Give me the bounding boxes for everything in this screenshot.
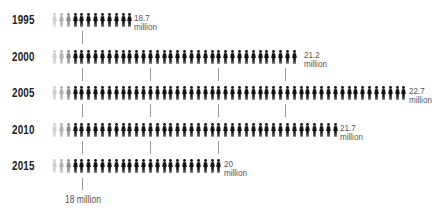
person-icon — [162, 159, 167, 173]
person-icon — [155, 86, 160, 100]
person-icon — [93, 123, 98, 137]
person-icon — [237, 50, 242, 64]
year-label-2005: 2005 — [12, 86, 35, 100]
person-icon — [73, 50, 78, 64]
person-icon — [299, 123, 304, 137]
person-icon — [196, 123, 201, 137]
person-icon — [155, 50, 160, 64]
person-icon — [52, 159, 57, 173]
reference-tick — [82, 68, 83, 81]
person-icon — [66, 123, 71, 137]
person-icon — [162, 123, 167, 137]
person-icon — [292, 50, 297, 64]
person-icon — [73, 13, 78, 27]
person-icon — [264, 50, 269, 64]
person-icon — [52, 123, 57, 137]
person-icon — [79, 159, 84, 173]
person-icon — [93, 13, 98, 27]
person-icon — [155, 159, 160, 173]
person-icon — [141, 50, 146, 64]
person-icon — [168, 123, 173, 137]
person-icon — [237, 123, 242, 137]
person-icon — [278, 50, 283, 64]
person-icon — [134, 159, 139, 173]
person-icon — [114, 86, 119, 100]
person-icon — [134, 50, 139, 64]
person-icon — [182, 50, 187, 64]
person-icon — [285, 86, 290, 100]
person-icon — [374, 86, 379, 100]
person-icon — [196, 50, 201, 64]
reference-tick — [285, 68, 286, 81]
person-icon — [73, 123, 78, 137]
person-icon — [182, 123, 187, 137]
person-icon — [121, 159, 126, 173]
year-label-2000: 2000 — [12, 50, 35, 64]
reference-tick — [82, 31, 83, 44]
person-icon — [107, 13, 112, 27]
person-icon — [141, 86, 146, 100]
person-icon — [285, 50, 290, 64]
person-icon — [59, 159, 64, 173]
person-icon — [258, 50, 263, 64]
person-icon — [264, 86, 269, 100]
person-icon — [353, 86, 358, 100]
reference-tick — [218, 104, 219, 117]
person-icon — [189, 86, 194, 100]
value-unit: million — [340, 132, 363, 141]
year-label-2010: 2010 — [12, 123, 35, 137]
value-label-2010: 21.7 million — [340, 123, 363, 141]
person-icon — [367, 86, 372, 100]
person-icon — [388, 86, 393, 100]
person-icon — [210, 123, 215, 137]
person-icon — [210, 159, 215, 173]
person-icon — [107, 159, 112, 173]
person-icon — [79, 123, 84, 137]
person-icon — [230, 50, 235, 64]
person-icon — [401, 86, 406, 100]
person-icon — [168, 159, 173, 173]
person-icon — [52, 13, 57, 27]
axis-label-18-million: 18 million — [65, 194, 101, 205]
person-icon — [305, 123, 310, 137]
person-icon — [86, 123, 91, 137]
year-label-2015: 2015 — [12, 159, 35, 173]
person-icon — [66, 50, 71, 64]
person-icon — [237, 86, 242, 100]
reference-tick — [150, 104, 151, 117]
person-icon — [175, 86, 180, 100]
person-icon — [216, 123, 221, 137]
person-icon — [107, 123, 112, 137]
value-label-2015: 20 million — [224, 159, 247, 177]
person-icon — [114, 13, 119, 27]
person-icon — [196, 159, 201, 173]
person-icon — [121, 123, 126, 137]
person-icon — [381, 86, 386, 100]
person-icon — [93, 86, 98, 100]
person-icon — [127, 159, 132, 173]
person-icon — [107, 50, 112, 64]
person-icon — [196, 86, 201, 100]
person-icon — [230, 86, 235, 100]
person-icon — [258, 123, 263, 137]
person-icon — [271, 50, 276, 64]
person-icon — [244, 50, 249, 64]
reference-tick — [218, 141, 219, 154]
person-icon — [127, 13, 132, 27]
person-icon — [52, 86, 57, 100]
person-icon — [182, 86, 187, 100]
reference-tick — [82, 104, 83, 117]
person-icon — [319, 123, 324, 137]
person-icon — [100, 13, 105, 27]
person-icon — [121, 13, 126, 27]
person-icon — [216, 159, 221, 173]
person-icon — [292, 86, 297, 100]
person-icon — [59, 123, 64, 137]
person-icon — [66, 13, 71, 27]
person-icon — [251, 50, 256, 64]
person-icon — [326, 86, 331, 100]
person-icon — [86, 50, 91, 64]
person-icon — [333, 123, 338, 137]
person-icon — [271, 123, 276, 137]
person-icon — [223, 50, 228, 64]
